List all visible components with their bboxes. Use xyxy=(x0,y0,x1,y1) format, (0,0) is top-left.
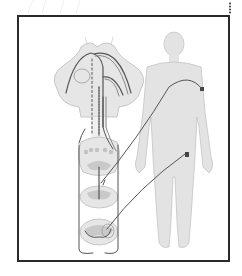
faint-sketch-remnant xyxy=(20,0,90,14)
human-body-silhouette xyxy=(135,32,212,247)
leg-target-icon xyxy=(185,152,189,157)
diagram-canvas xyxy=(0,0,242,276)
pathway-illustration xyxy=(19,17,228,260)
diagram-frame xyxy=(17,15,230,262)
dotted-edge-marker xyxy=(228,2,232,14)
